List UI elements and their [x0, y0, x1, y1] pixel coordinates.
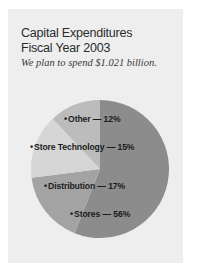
bullet-icon: • — [30, 142, 33, 152]
pie-label-store-technology: •Store Technology — 15% — [30, 142, 134, 152]
pie-chart: •Other — 12% •Store Technology — 15% •Di… — [8, 9, 183, 263]
bullet-icon: • — [64, 114, 67, 124]
pie-label-stores-text: Stores — 56% — [74, 209, 130, 219]
pie-label-other: •Other — 12% — [64, 114, 120, 124]
pie-label-stores: •Stores — 56% — [70, 209, 130, 219]
pie-label-distribution: •Distribution — 17% — [44, 181, 125, 191]
bullet-icon: • — [44, 181, 47, 191]
pie-label-distribution-text: Distribution — 17% — [48, 181, 125, 191]
figure-card: Capital Expenditures Fiscal Year 2003 We… — [8, 9, 183, 263]
bullet-icon: • — [70, 209, 73, 219]
pie-label-other-text: Other — 12% — [68, 114, 120, 124]
pie-label-store-technology-text: Store Technology — 15% — [34, 142, 134, 152]
pie-chart-svg — [8, 9, 183, 263]
